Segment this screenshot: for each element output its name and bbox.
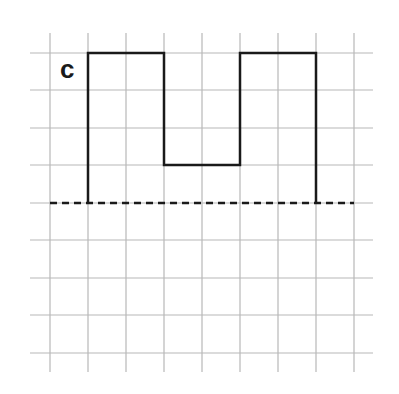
figure-label: c — [60, 56, 74, 82]
grid-figure: c — [0, 0, 399, 394]
